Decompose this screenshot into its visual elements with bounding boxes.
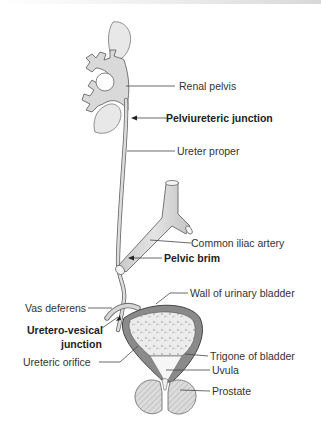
label-common-iliac-artery: Common iliac artery	[191, 237, 284, 249]
prostate	[135, 379, 196, 415]
label-uvula: Uvula	[212, 364, 239, 376]
label-vas-deferens: Vas deferens	[25, 302, 86, 314]
label-pelvic-brim: Pelvic brim	[164, 252, 220, 264]
kidney	[82, 22, 131, 133]
label-wall-of-urinary-bladder: Wall of urinary bladder	[190, 287, 295, 299]
diagram-canvas: Renal pelvis Pelviureteric junction Uret…	[0, 0, 321, 431]
label-uretero-vesical-junction-line2: junction	[61, 338, 102, 350]
label-ureteric-orifice: Ureteric orifice	[23, 356, 91, 368]
label-uretero-vesical-junction-line1: Uretero-vesical	[27, 324, 103, 336]
label-pelviureteric-junction: Pelviureteric junction	[166, 112, 273, 124]
label-prostate: Prostate	[212, 385, 251, 397]
label-trigone-of-bladder: Trigone of bladder	[210, 350, 295, 362]
label-renal-pelvis: Renal pelvis	[179, 80, 236, 92]
label-ureter-proper: Ureter proper	[177, 145, 239, 157]
urinary-bladder	[122, 305, 202, 382]
